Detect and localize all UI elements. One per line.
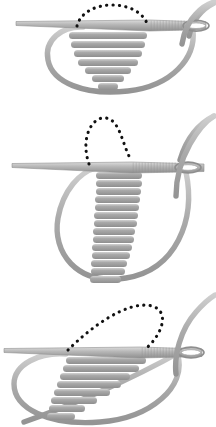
step-panel-2	[0, 110, 216, 290]
stitch-bar	[98, 83, 118, 90]
diagram-sheet	[0, 0, 216, 427]
stitch-bar	[63, 365, 139, 372]
stitch-bar	[93, 228, 135, 235]
needle-shaft-texture	[132, 163, 176, 173]
stitch-bar	[57, 381, 121, 388]
needle-eye-hole	[182, 350, 201, 356]
stitch-bar	[74, 50, 142, 57]
stitch-bar	[92, 252, 130, 259]
stitch-bar	[85, 67, 131, 74]
stitch-bar	[92, 75, 124, 82]
stitch-bar	[96, 180, 142, 187]
stitch-bar	[90, 276, 121, 283]
panel-1-illustration	[0, 0, 216, 110]
stitch-bar	[91, 268, 125, 275]
stitch-bar	[60, 373, 130, 380]
stitch-bar	[71, 41, 145, 48]
stitch-bar	[94, 212, 138, 219]
panel-3-illustration	[0, 290, 216, 427]
stitch-bar	[78, 59, 138, 66]
stitch-bar	[51, 397, 97, 404]
stitch-bar	[47, 413, 75, 420]
stitch-bar	[92, 244, 132, 251]
stitch-bar	[94, 220, 137, 227]
stitch-bar	[95, 204, 139, 211]
stitch-bar	[96, 188, 141, 195]
panel-2-illustration	[0, 110, 216, 290]
stitch-bar	[95, 196, 140, 203]
stitch-bar	[54, 389, 110, 396]
stitch-bar	[69, 32, 147, 39]
stitch-bar	[49, 405, 85, 412]
stitch-bar	[93, 236, 134, 243]
stitch-bar	[91, 260, 127, 267]
step-panel-1	[0, 0, 216, 110]
step-panel-3	[0, 290, 216, 427]
